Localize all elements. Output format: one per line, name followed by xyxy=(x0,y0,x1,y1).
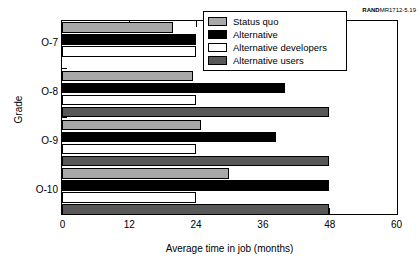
bar xyxy=(62,95,196,106)
credit-code: MR1712-5.19 xyxy=(380,7,416,13)
x-axis-tick-label: 48 xyxy=(324,219,335,230)
y-axis-group-tick xyxy=(62,117,67,118)
bar xyxy=(62,168,229,179)
y-axis-label-o-7: O-7 xyxy=(0,37,58,48)
legend-label: Status quo xyxy=(233,16,278,27)
bar xyxy=(62,120,201,131)
y-axis-label-o-9: O-9 xyxy=(0,135,58,146)
bar xyxy=(62,22,173,33)
bar xyxy=(62,83,285,94)
x-axis-tick-label: 12 xyxy=(124,219,135,230)
y-axis-label-o-10: O-10 xyxy=(0,184,58,195)
x-axis-title: Average time in job (months) xyxy=(61,243,398,254)
bar xyxy=(62,71,193,82)
legend-swatch-status-quo-icon xyxy=(208,17,227,26)
x-axis-tick xyxy=(196,21,197,27)
legend: Status quo Alternative Alternative devel… xyxy=(203,11,347,71)
legend-swatch-alternative-icon xyxy=(208,30,227,39)
bar xyxy=(62,192,196,203)
x-axis-tick-label: 60 xyxy=(391,219,402,230)
legend-item[interactable]: Alternative xyxy=(208,28,342,41)
x-axis-tick-label: 24 xyxy=(191,219,202,230)
bar xyxy=(62,132,276,143)
y-axis-group-tick xyxy=(62,68,67,69)
legend-swatch-alternative-users-icon xyxy=(208,56,227,65)
source-credit: RANDMR1712-5.19 xyxy=(362,7,416,13)
legend-label: Alternative developers xyxy=(233,42,327,53)
credit-brand: RAND xyxy=(362,7,379,13)
legend-item[interactable]: Alternative developers xyxy=(208,41,342,54)
bar xyxy=(62,46,196,57)
bar xyxy=(62,107,329,118)
legend-swatch-alternative-developers-icon xyxy=(208,43,227,52)
legend-item[interactable]: Alternative users xyxy=(208,54,342,67)
y-axis-label-o-8: O-8 xyxy=(0,86,58,97)
legend-label: Alternative xyxy=(233,29,278,40)
x-axis-tick-label: 36 xyxy=(257,219,268,230)
x-axis-tick xyxy=(329,208,330,214)
y-axis-group-tick xyxy=(62,165,67,166)
bar xyxy=(62,180,329,191)
bar xyxy=(62,156,329,167)
figure-root: RANDMR1712-5.19 Grade O-7O-8O-9O-10 0122… xyxy=(0,0,420,265)
bar xyxy=(62,204,329,215)
x-axis-tick-label: 0 xyxy=(60,219,66,230)
bar xyxy=(62,34,196,45)
legend-item[interactable]: Status quo xyxy=(208,15,342,28)
bar xyxy=(62,144,196,155)
legend-label: Alternative users xyxy=(233,55,304,66)
